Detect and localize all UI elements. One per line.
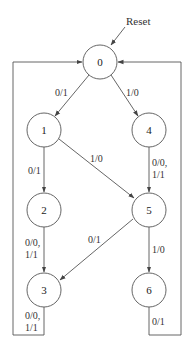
transition-label: 0/1: [152, 316, 165, 327]
state-2: 2: [27, 193, 61, 227]
state-6: 6: [132, 273, 166, 307]
state-3: 3: [27, 273, 61, 307]
transition-label: 0/1: [28, 165, 41, 176]
transition-label: 1/0: [126, 87, 139, 98]
state-diagram: Reset 0/1 1/0 0/1 1/0 0/0, 1/1 0/0, 1/1 …: [0, 0, 192, 349]
state-label: 1: [41, 124, 47, 136]
state-label: 2: [41, 204, 47, 216]
transition-label: 0/1: [88, 234, 101, 245]
state-0: 0: [83, 45, 117, 79]
state-label: 4: [146, 124, 152, 136]
transition-label-line1: 0/0,: [152, 157, 167, 168]
transition-label-line2: 1/1: [25, 249, 38, 260]
transition-2-3: 0/0, 1/1: [25, 227, 44, 272]
transition-5-3: 0/1: [60, 219, 133, 280]
state-label: 5: [146, 204, 152, 216]
state-label: 3: [41, 284, 47, 296]
transition-0-4: 1/0: [111, 75, 139, 116]
transition-label: 1/0: [152, 244, 165, 255]
state-label: 0: [97, 56, 103, 68]
transition-label-line2: 1/1: [152, 169, 165, 180]
transition-5-6: 1/0: [149, 227, 165, 272]
transition-1-5: 1/0: [59, 139, 134, 198]
state-5: 5: [132, 193, 166, 227]
transition-label-line1: 0/0,: [25, 310, 40, 321]
transition-label-line2: 1/1: [25, 322, 38, 333]
state-1: 1: [27, 113, 61, 147]
reset-arrow: Reset: [111, 15, 150, 45]
transition-label-line1: 0/0,: [25, 237, 40, 248]
transition-4-5: 0/0, 1/1: [149, 147, 167, 192]
reset-label: Reset: [126, 15, 150, 27]
state-4: 4: [132, 113, 166, 147]
transition-1-2: 0/1: [28, 147, 44, 192]
transition-label: 1/0: [90, 153, 103, 164]
transition-0-1: 0/1: [55, 75, 89, 116]
state-label: 6: [146, 284, 152, 296]
transition-label: 0/1: [55, 87, 68, 98]
